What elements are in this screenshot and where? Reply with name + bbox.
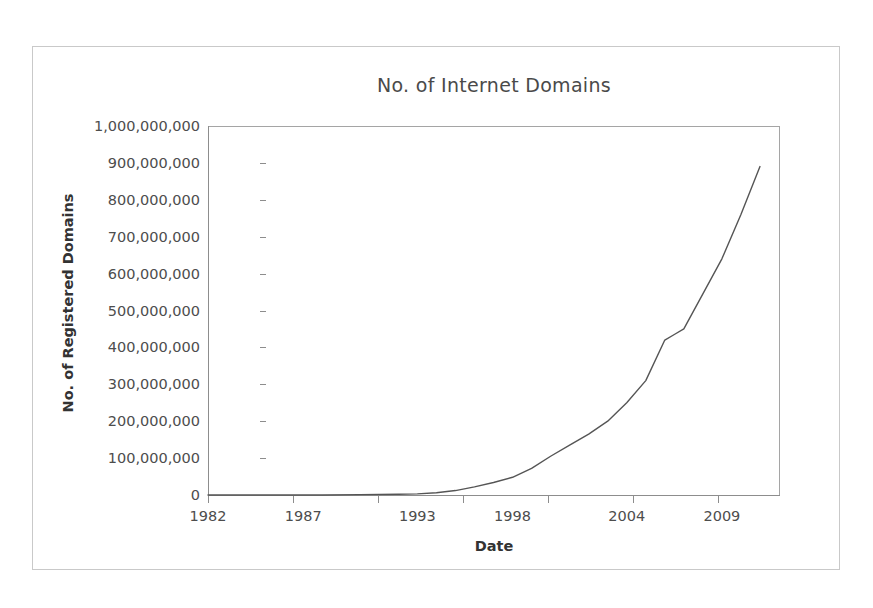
x-axis-tick-mark [463,496,464,503]
x-axis-tick-mark [718,496,719,503]
x-axis-tick-mark [378,496,379,503]
x-axis-tick-mark [548,496,549,503]
y-axis-tick-label: 700,000,000 [108,229,208,245]
y-axis-tick-label: 600,000,000 [108,266,208,282]
y-axis-tick-label: 500,000,000 [108,303,208,319]
chart-title: No. of Internet Domains [208,74,780,96]
plot-area [208,126,779,495]
y-axis-tick-label: 0 [191,487,208,503]
series-path [208,167,760,495]
x-axis-title: Date [208,538,780,554]
plot-border-right [779,126,780,496]
x-axis-tick-label: 1987 [285,508,322,524]
y-axis-tick-label: 400,000,000 [108,339,208,355]
x-axis-tick-label: 2009 [703,508,740,524]
x-axis-tick-label: 1982 [190,508,227,524]
y-axis-tick-label: 100,000,000 [108,450,208,466]
y-axis-tick-label: 1,000,000,000 [94,118,208,134]
y-axis-tick-label: 900,000,000 [108,155,208,171]
y-axis-tick-labels: 1,000,000,000900,000,000800,000,000700,0… [58,0,208,608]
data-series-line [208,126,779,495]
y-axis-title: No. of Registered Domains [60,173,76,433]
x-axis-tick-label: 1998 [494,508,531,524]
y-axis-tick-label: 300,000,000 [108,376,208,392]
x-axis-tick-label: 2004 [608,508,645,524]
x-axis-tick-mark [633,496,634,503]
x-axis-tick-mark [208,496,209,503]
x-axis-tick-mark [293,496,294,503]
x-axis-tick-label: 1993 [399,508,436,524]
y-axis-tick-label: 800,000,000 [108,192,208,208]
y-axis-tick-label: 200,000,000 [108,413,208,429]
